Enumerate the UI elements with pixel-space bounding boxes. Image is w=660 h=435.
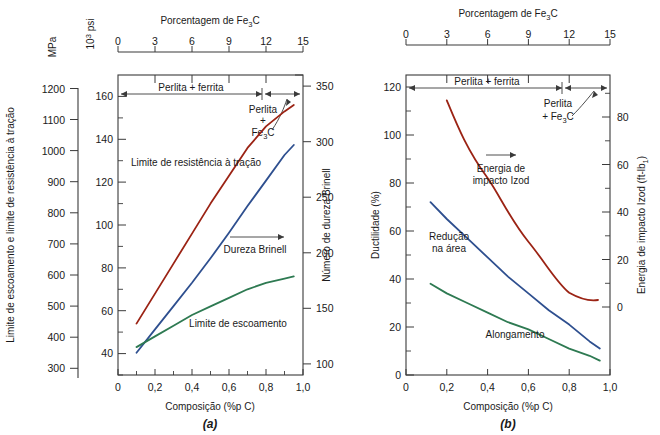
region-leader-line: [572, 91, 594, 116]
panel-a-left-outer-unit: MPa: [47, 36, 58, 57]
bottom-tick-label: 0,4: [185, 381, 200, 393]
panel-a-bottom-axis-title: Composição (%p C): [165, 401, 254, 412]
bottom-tick-label: 0,8: [259, 381, 274, 393]
left-inner-tick-label: 140: [95, 133, 113, 145]
panel-b-left-axis-title: Ductilidade (%): [370, 191, 381, 259]
arrowhead: [565, 85, 571, 91]
brinell-tick-label: 300: [316, 136, 334, 148]
top-tick-label: 3: [444, 28, 450, 40]
label-brinell-group: Dureza Brinell: [224, 234, 287, 255]
panel-a-top-axis-title: Porcentagem de Fe3C: [160, 15, 259, 29]
label-reduction-line1: Redução: [429, 231, 469, 242]
label-yield-strength: Limite de escoamento: [189, 318, 287, 329]
panel-a-letter: (a): [203, 417, 218, 431]
izod-tick-label: 0: [617, 301, 623, 313]
bottom-tick-label: 0,6: [222, 381, 237, 393]
panel-b-top-tick-labels: 0 3 6 9 12 15: [403, 28, 616, 40]
panel-a-curves: [137, 105, 294, 353]
bottom-tick-label: 1,0: [603, 381, 618, 393]
top-tick-label: 0: [115, 35, 121, 47]
bottom-tick-label: 0,2: [148, 381, 163, 393]
bottom-tick-label: 1,0: [296, 381, 311, 393]
brinell-tick-label: 350: [316, 80, 334, 92]
bottom-tick-label: 0: [403, 381, 409, 393]
top-tick-label: 3: [152, 35, 158, 47]
panel-b-bottom-ticks: [406, 369, 610, 375]
top-tick-label: 12: [563, 28, 575, 40]
panel-b-letter: (b): [500, 417, 515, 431]
panel-a-mpa-ticks: 1200 1100 1000 900 800 700 600 500 400 3…: [42, 83, 78, 375]
izod-tick-label: 40: [617, 206, 629, 218]
bottom-tick-label: 0,2: [439, 381, 454, 393]
arrowhead: [256, 91, 262, 97]
panel-b-bottom-axis-title: Composição (%p C): [463, 401, 552, 412]
top-tick-label: 6: [189, 35, 195, 47]
panel-a-bottom-tick-labels: 0 0,2 0,4 0,6 0,8 1,0: [115, 381, 310, 393]
panel-a-left-outer-axis-title: Limite de escoamento e limite de resistê…: [5, 107, 16, 343]
panel-b-top-axis-title: Porcentagem de Fe3C: [458, 8, 557, 22]
ductility-tick-label: 60: [389, 225, 401, 237]
bottom-tick-label: 0,8: [562, 381, 577, 393]
arrowhead: [409, 85, 415, 91]
label-izod-line1: Energia de: [477, 163, 526, 174]
top-tick-label: 9: [226, 35, 232, 47]
region-label-pearlite-cementite-line2: +: [260, 115, 266, 126]
left-inner-tick-label: 120: [95, 176, 113, 188]
top-tick-label: 12: [260, 35, 272, 47]
arrowhead: [265, 91, 271, 97]
panel-b-right-axis-title: Energia de impacto Izod (ft-lb1): [636, 156, 650, 294]
panel-a-right-axis-title: Número de dureza Brinell: [321, 168, 332, 281]
ductility-tick-label: 80: [389, 177, 401, 189]
region-label-pearlite-cementite-line2: + Fe3C: [542, 111, 574, 125]
panel-a-bottom-ticks: [118, 369, 303, 375]
panel-b-izod-ticks: 80 60 40 20 0: [602, 93, 629, 313]
izod-tick-label: 20: [617, 254, 629, 266]
izod-tick-label: 60: [617, 159, 629, 171]
mpa-tick-label: 500: [47, 300, 65, 312]
ductility-tick-label: 120: [383, 81, 401, 93]
panel-b-bottom-tick-labels: 0 0,2 0,4 0,6 0,8 1,0: [403, 381, 617, 393]
left-inner-tick-label: 100: [95, 219, 113, 231]
panel-b-region-annotations: Perlita + ferrita Perlita + Fe3C: [409, 76, 607, 125]
mpa-tick-label: 1200: [42, 83, 66, 95]
top-tick-label: 15: [297, 35, 309, 47]
left-inner-tick-label: 60: [101, 305, 113, 317]
figure-svg: Porcentagem de Fe3C 0 3 6 9 12 15: [0, 0, 660, 435]
mpa-tick-label: 1100: [42, 114, 65, 126]
ductility-tick-label: 0: [395, 369, 401, 381]
curve-izod-impact-energy: [447, 100, 598, 300]
top-tick-label: 9: [525, 28, 531, 40]
figure-container: Porcentagem de Fe3C 0 3 6 9 12 15: [0, 0, 660, 435]
mpa-tick-label: 700: [47, 238, 65, 250]
bottom-tick-label: 0,4: [480, 381, 495, 393]
arrowhead: [556, 85, 562, 91]
ductility-tick-label: 20: [389, 321, 401, 333]
mpa-tick-label: 1000: [42, 145, 66, 157]
left-inner-tick-label: 80: [101, 262, 113, 274]
bottom-tick-label: 0,6: [521, 381, 536, 393]
panel-b-left-ticks: 120 100 80 60 40 20 0: [383, 81, 414, 381]
panel-a-top-tick-labels: 0 3 6 9 12 15: [115, 35, 309, 47]
bottom-tick-label: 0: [115, 381, 121, 393]
ductility-tick-label: 40: [389, 273, 401, 285]
arrowhead: [601, 85, 607, 91]
mpa-tick-label: 600: [47, 269, 65, 281]
brinell-tick-label: 100: [316, 358, 334, 370]
left-inner-tick-label: 160: [95, 90, 113, 102]
panel-a-region-annotations: Perlita + ferrita Perlita + Fe3C: [121, 82, 300, 141]
label-izod-group: Energia de impacto Izod: [473, 152, 530, 186]
arrowhead: [278, 234, 284, 240]
arrowhead: [510, 152, 516, 158]
region-label-pearlite-cementite-line1: Perlita: [544, 98, 573, 109]
label-reduction-line2: na área: [432, 243, 466, 254]
top-tick-label: 6: [485, 28, 491, 40]
region-label-pearlite-cementite-line1: Perlita: [249, 104, 278, 115]
mpa-tick-label: 300: [47, 362, 65, 374]
mpa-tick-label: 400: [47, 331, 65, 343]
region-label-pearlite-ferrite: Perlita + ferrita: [454, 76, 520, 87]
mpa-tick-label: 800: [47, 207, 65, 219]
mpa-tick-label: 900: [47, 176, 65, 188]
izod-tick-label: 80: [617, 111, 629, 123]
panel-a-left-inner-unit: 103 psi: [84, 19, 96, 50]
left-inner-tick-label: 40: [101, 347, 113, 359]
